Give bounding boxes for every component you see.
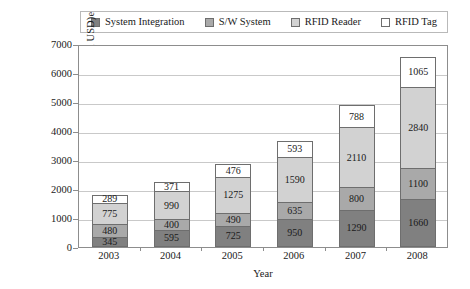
gridline [79, 104, 447, 105]
bar-value-label: 476 [226, 166, 241, 176]
bar-value-label: 788 [349, 112, 364, 122]
x-axis-ticklabels: 200320042005200620072008 [78, 251, 448, 267]
bar-value-label: 490 [226, 215, 241, 225]
bar-segment[interactable]: 950 [277, 219, 313, 247]
bar-value-label: 1065 [408, 67, 428, 77]
bar-value-label: 2840 [408, 123, 428, 133]
gridline [79, 133, 447, 134]
bar-segment[interactable]: 635 [277, 202, 313, 220]
bar-segment[interactable]: 289 [92, 195, 128, 203]
bar-value-label: 950 [287, 228, 302, 238]
bar-stack[interactable]: 9506351590593 [277, 142, 313, 247]
y-axis-ticklabel: 6000 [28, 69, 72, 80]
bar-segment[interactable]: 775 [92, 203, 128, 225]
y-axis-ticklabels: 01000200030004000500060007000 [28, 45, 72, 248]
gridline [79, 162, 447, 163]
x-axis-ticklabel: 2004 [141, 251, 201, 262]
bar-segment[interactable]: 1100 [400, 168, 436, 200]
y-axis-ticklabel: 0 [28, 243, 72, 254]
bar-value-label: 1590 [285, 175, 305, 185]
bar-segment[interactable]: 788 [339, 105, 375, 128]
bar-segment[interactable]: 725 [215, 226, 251, 247]
legend-item-label: S/W System [219, 17, 271, 28]
bar-segment[interactable]: 1065 [400, 57, 436, 88]
gridline [79, 191, 447, 192]
chart-legend: System IntegrationS/W SystemRFID ReaderR… [80, 11, 448, 33]
legend-item[interactable]: System Integration [91, 17, 185, 28]
x-axis-ticklabel: 2007 [326, 251, 386, 262]
legend-item-label: RFID Reader [305, 17, 361, 28]
bar-segment[interactable]: 490 [215, 213, 251, 227]
bar-segment[interactable]: 1275 [215, 177, 251, 214]
bar-segment[interactable]: 1290 [339, 210, 375, 247]
plot-area: 3454807752895954009903717254901275476950… [78, 45, 448, 248]
bar-segment[interactable]: 990 [154, 191, 190, 220]
bar-value-label: 2110 [347, 153, 367, 163]
y-axis-ticklabel: 7000 [28, 40, 72, 51]
bar-value-label: 400 [164, 220, 179, 230]
bar-segment[interactable]: 371 [154, 182, 190, 193]
legend-item[interactable]: RFID Reader [291, 17, 361, 28]
bar-segment[interactable]: 593 [277, 141, 313, 158]
bar-value-label: 1275 [223, 190, 243, 200]
bar-value-label: 1290 [347, 223, 367, 233]
legend-swatch-icon [381, 18, 390, 27]
bar-stack[interactable]: 12908002110788 [339, 106, 375, 247]
legend-swatch-icon [291, 18, 300, 27]
bar-segment[interactable]: 1590 [277, 157, 313, 203]
y-axis-ticklabel: 5000 [28, 98, 72, 109]
bar-value-label: 725 [226, 231, 241, 241]
bar-segment[interactable]: 2840 [400, 87, 436, 169]
legend-item[interactable]: S/W System [205, 17, 271, 28]
y-axis-ticklabel: 3000 [28, 156, 72, 167]
gridline [79, 220, 447, 221]
bar-value-label: 480 [102, 226, 117, 236]
gridlines [79, 46, 447, 247]
y-axis-ticklabel: 2000 [28, 185, 72, 196]
bar-stack[interactable]: 595400990371 [154, 183, 190, 247]
bar-stack[interactable]: 7254901275476 [215, 165, 251, 247]
x-axis-title: Year [78, 268, 448, 279]
x-axis-ticklabel: 2003 [79, 251, 139, 262]
bar-value-label: 990 [164, 201, 179, 211]
legend-item[interactable]: RFID Tag [381, 17, 437, 28]
bar-value-label: 595 [164, 233, 179, 243]
chart-figure: System IntegrationS/W SystemRFID ReaderR… [0, 0, 470, 289]
y-axis-ticklabel: 1000 [28, 214, 72, 225]
bar-segment[interactable]: 595 [154, 230, 190, 247]
bar-value-label: 345 [102, 237, 117, 247]
gridline [79, 75, 447, 76]
bar-value-label: 1100 [408, 179, 428, 189]
bar-value-label: 371 [164, 182, 179, 192]
bar-value-label: 635 [287, 206, 302, 216]
bar-value-label: 1660 [408, 218, 428, 228]
bar-segment[interactable]: 1660 [400, 199, 436, 247]
x-axis-ticklabel: 2005 [202, 251, 262, 262]
bar-stack[interactable]: 345480775289 [92, 196, 128, 247]
legend-item-label: System Integration [105, 17, 185, 28]
bar-segment[interactable]: 476 [215, 164, 251, 178]
bar-value-label: 289 [102, 194, 117, 204]
bar-segment[interactable]: 400 [154, 219, 190, 231]
y-axis-tickmark [73, 248, 78, 249]
x-axis-ticklabel: 2008 [387, 251, 447, 262]
bar-stack[interactable]: 1660110028401065 [400, 58, 436, 247]
bar-segment[interactable]: 800 [339, 187, 375, 210]
x-axis-ticklabel: 2006 [264, 251, 324, 262]
bar-value-label: 593 [287, 144, 302, 154]
legend-item-label: RFID Tag [395, 17, 437, 28]
bar-segment[interactable]: 2110 [339, 127, 375, 188]
bar-value-label: 775 [102, 209, 117, 219]
legend-swatch-icon [205, 18, 214, 27]
bar-value-label: 800 [349, 194, 364, 204]
y-axis-ticklabel: 4000 [28, 127, 72, 138]
bar-segment[interactable]: 345 [92, 237, 128, 247]
bar-segment[interactable]: 480 [92, 224, 128, 238]
